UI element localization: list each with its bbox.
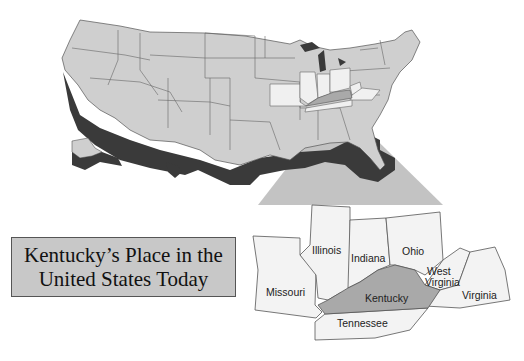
title-line-1: Kentucky’s Place in the: [24, 243, 223, 267]
label-west-virginia-line2: Virginia: [425, 277, 460, 288]
map-figure: Illinois Indiana Ohio West Virginia Miss…: [0, 0, 524, 361]
label-missouri: Missouri: [266, 287, 305, 298]
us-map: [0, 0, 524, 361]
label-tennessee: Tennessee: [337, 318, 388, 329]
title-line-2: United States Today: [39, 267, 209, 291]
title-box: Kentucky’s Place in the United States To…: [11, 237, 236, 297]
label-illinois: Illinois: [312, 245, 341, 256]
us-ohio: [330, 68, 350, 92]
label-indiana: Indiana: [351, 253, 385, 264]
us-illinois: [300, 72, 318, 104]
label-virginia: Virginia: [462, 290, 497, 301]
label-kentucky: Kentucky: [365, 293, 408, 304]
label-ohio: Ohio: [402, 246, 424, 257]
